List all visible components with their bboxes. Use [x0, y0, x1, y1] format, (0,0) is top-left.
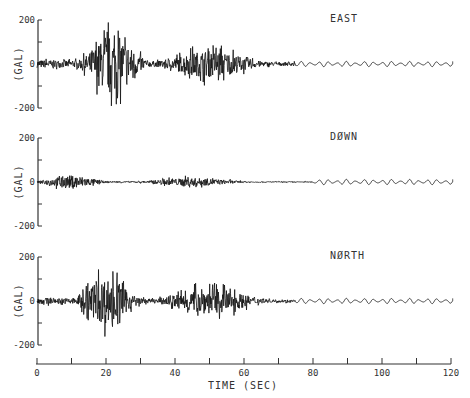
panel-døwn: 2000-200(GAL)DØWN	[13, 131, 453, 231]
y-tick-label: 200	[19, 252, 35, 262]
component-label: NØRTH	[330, 250, 365, 261]
y-axis-label: (GAL)	[13, 46, 24, 81]
waveform-trace	[37, 176, 453, 189]
x-tick-label: 120	[443, 368, 459, 378]
y-tick-label: 0	[30, 59, 35, 69]
y-tick-label: 200	[19, 133, 35, 143]
panel-east: 2000-200(GAL)EAST	[13, 13, 453, 113]
x-tick-label: 40	[170, 368, 181, 378]
y-tick-label: -200	[13, 340, 35, 350]
component-label: EAST	[330, 13, 358, 24]
x-tick-label: 80	[308, 368, 319, 378]
waveform-trace	[37, 270, 453, 337]
panel-nørth: 2000-200(GAL)NØRTH	[13, 250, 453, 350]
y-tick-label: 0	[30, 296, 35, 306]
x-axis-label: TIME (SEC)	[208, 380, 278, 391]
seismogram-figure: 2000-200(GAL)EAST2000-200(GAL)DØWN2000-2…	[0, 0, 470, 398]
y-axis-label: (GAL)	[13, 283, 24, 318]
x-tick-label: 0	[34, 368, 39, 378]
y-tick-label: -200	[13, 103, 35, 113]
x-tick-label: 60	[239, 368, 250, 378]
y-axis-label: (GAL)	[13, 164, 24, 199]
waveform-trace	[37, 23, 453, 106]
y-tick-label: 0	[30, 177, 35, 187]
x-tick-label: 20	[101, 368, 112, 378]
component-label: DØWN	[330, 131, 358, 142]
y-tick-label: -200	[13, 221, 35, 231]
y-tick-label: 200	[19, 15, 35, 25]
x-tick-label: 100	[374, 368, 390, 378]
time-axis: 020406080100120 TIME (SEC)	[34, 358, 459, 391]
